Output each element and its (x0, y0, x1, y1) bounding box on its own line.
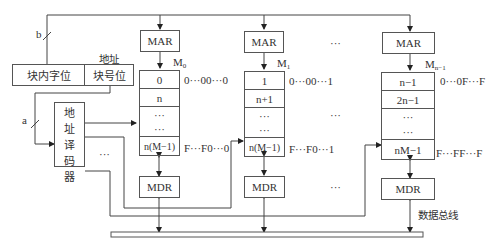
mar-m0: MAR (140, 30, 180, 52)
mdr-mn-1: MDR (381, 178, 435, 200)
decoder-ellipsis: ··· (99, 148, 110, 160)
last-address-mn-1: F···FF···F (436, 147, 482, 159)
cell: n (140, 89, 179, 107)
memory-bank-m1: 1 n+1 ··· ··· n(M−1) (244, 71, 285, 157)
cell: ··· (245, 108, 284, 123)
cell: n(M−1) (140, 137, 179, 155)
modules-ellipsis: ··· (330, 37, 341, 49)
cell: 1 (245, 72, 284, 90)
cell: ··· (382, 109, 434, 124)
memory-bank-m0: 0 n ··· ··· n(M−1) (139, 70, 180, 156)
cell: nM−1 (382, 140, 434, 159)
bus-width-b-label: b (36, 28, 42, 40)
mdr-m0: MDR (139, 176, 180, 198)
cell: ··· (245, 123, 284, 138)
decoder-label: 地 址 译 码 器 (62, 106, 76, 186)
mar-mn-1: MAR (382, 32, 435, 54)
last-address-m1: F···F0···1 (289, 143, 334, 155)
modules-ellipsis: ··· (330, 109, 341, 121)
mar-m1: MAR (244, 31, 284, 53)
modules-ellipsis: ··· (330, 181, 341, 193)
cell: n−1 (382, 73, 434, 91)
memory-bank-mn-1: n−1 2n−1 ··· ··· nM−1 (381, 72, 435, 160)
cell: ··· (382, 124, 434, 140)
first-address-m1: 0···00···1 (289, 75, 333, 87)
cell: 2n−1 (382, 91, 434, 109)
first-address-mn-1: 0···0F···F (440, 75, 485, 87)
bus-width-a-label: a (22, 114, 27, 126)
word-in-block-field: 块内字位 (12, 64, 85, 86)
data-bus-label: 数据总线 (418, 209, 458, 221)
cell: n(M−1) (245, 138, 284, 156)
block-number-field: 块号位 (84, 64, 134, 86)
last-address-m0: F···F0···0 (184, 142, 229, 154)
first-address-m0: 0···00···0 (184, 74, 228, 86)
cell: 0 (140, 71, 179, 89)
cell: n+1 (245, 90, 284, 108)
data-bus (111, 232, 423, 237)
cell: ··· (140, 107, 179, 122)
cell: ··· (140, 122, 179, 137)
mdr-m1: MDR (244, 176, 285, 198)
